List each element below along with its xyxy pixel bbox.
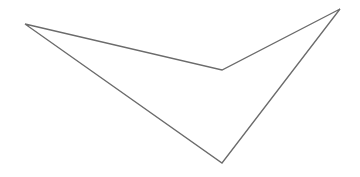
diagram-canvas <box>0 0 360 177</box>
concave-quadrilateral-shape <box>25 9 340 163</box>
arrowhead-shape-svg <box>0 0 360 177</box>
